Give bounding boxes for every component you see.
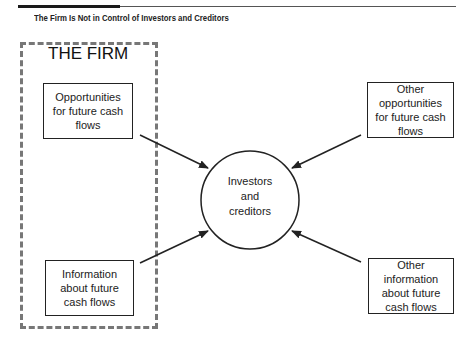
- box-other-information-label: Other information about future cash flow…: [375, 258, 447, 314]
- arrow-information: [140, 231, 208, 263]
- box-opportunities: Opportunities for future cash flows: [43, 83, 133, 139]
- investors-label: Investors and creditors: [205, 174, 295, 219]
- box-opportunities-label: Opportunities for future cash flows: [48, 90, 128, 132]
- arrow-other-information: [292, 231, 361, 262]
- box-information: Information about future cash flows: [45, 260, 134, 316]
- arrow-opportunities: [140, 135, 208, 168]
- box-other-information: Other information about future cash flow…: [368, 258, 454, 314]
- box-information-label: Information about future cash flows: [54, 267, 125, 309]
- arrow-other-opportunities: [292, 135, 361, 168]
- box-other-opportunities: Other opportunities for future cash flow…: [367, 82, 454, 138]
- box-other-opportunities-label: Other opportunities for future cash flow…: [374, 82, 447, 138]
